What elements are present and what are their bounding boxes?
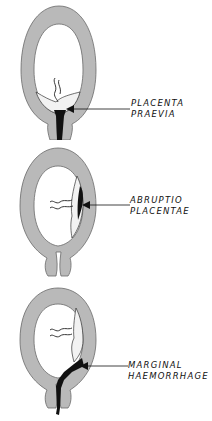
umbilical-cord: [54, 78, 60, 102]
label-placenta-praevia: PLACENTA PRAEVIA: [131, 98, 184, 120]
label-abruptio-placentae: ABRUPTIO PLACENTAE: [130, 195, 190, 217]
panel-abruptio-placentae: ABRUPTIO PLACENTAE: [0, 140, 212, 280]
uterus-diagram-marginal-haemorrhage: [0, 280, 212, 421]
panel-placenta-praevia: PLACENTA PRAEVIA: [0, 0, 212, 140]
umbilical-cord: [50, 328, 72, 337]
umbilical-cord: [50, 200, 73, 209]
uterine-wall: [20, 148, 96, 276]
panel-marginal-haemorrhage: MARGINAL HAEMORRHAGE: [0, 280, 212, 421]
label-marginal-haemorrhage: MARGINAL HAEMORRHAGE: [128, 360, 209, 382]
